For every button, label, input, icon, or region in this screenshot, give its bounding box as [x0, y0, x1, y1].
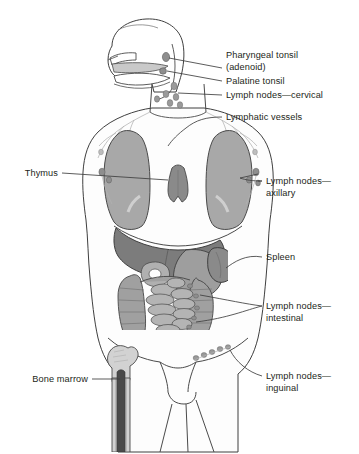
thymus [168, 165, 188, 202]
label-lymph-nodes-intestinal-line2: intestinal [266, 313, 303, 324]
palatine-tonsil [160, 68, 167, 74]
label-pharyngeal-tonsil-alt: (adenoid) [226, 62, 266, 73]
label-lymph-nodes-axillary-line1: Lymph nodes— [266, 176, 331, 187]
label-lymph-nodes-inguinal-line1: Lymph nodes— [266, 371, 331, 382]
diagram-artwork [0, 0, 359, 454]
label-lymph-nodes-axillary-line2: axillary [266, 188, 295, 199]
label-lymph-nodes-intestinal-line1: Lymph nodes— [266, 301, 331, 312]
label-pharyngeal-tonsil: Pharyngeal tonsil [226, 50, 298, 61]
lung-left [206, 131, 252, 230]
label-bone-marrow: Bone marrow [0, 374, 88, 385]
label-lymph-nodes-inguinal-line2: inguinal [266, 383, 298, 394]
label-spleen: Spleen [266, 252, 295, 263]
label-palatine-tonsil: Palatine tonsil [226, 76, 285, 87]
label-lymphatic-vessels: Lymphatic vessels [226, 112, 302, 123]
label-thymus: Thymus [0, 168, 58, 179]
lymphatic-system-diagram: Pharyngeal tonsil (adenoid) Palatine ton… [0, 0, 359, 454]
label-lymph-nodes-cervical: Lymph nodes—cervical [226, 90, 323, 101]
bone-marrow [117, 370, 125, 452]
pharyngeal-tonsil [162, 52, 169, 61]
